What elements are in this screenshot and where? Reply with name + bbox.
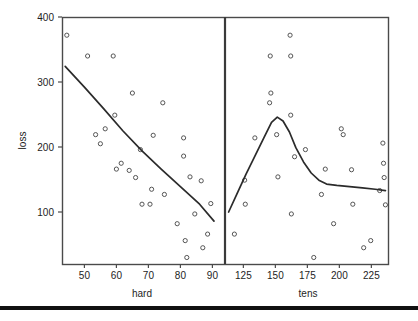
data-point [183,239,187,243]
data-point [114,167,118,171]
data-point [383,203,387,207]
data-point [209,201,213,205]
data-point [232,232,236,236]
data-point [134,175,138,179]
data-point [269,91,273,95]
data-point [341,133,345,137]
y-tick-label: 400 [37,12,54,23]
x-tick-label: 80 [175,270,187,281]
data-point [113,113,117,117]
data-point [289,54,293,58]
data-point [148,202,152,206]
y-tick-label: 300 [37,77,54,88]
data-point [103,127,107,131]
data-point [188,175,192,179]
data-point [185,255,189,259]
data-point [369,239,373,243]
data-point [268,54,272,58]
x-axis-label: hard [132,288,152,299]
y-tick-label: 200 [37,142,54,153]
data-point [94,133,98,137]
data-point [268,101,272,105]
data-point [151,133,155,137]
data-point [130,91,134,95]
data-point [276,175,280,179]
bottom-divider-bar [0,306,418,310]
data-point [312,255,316,259]
data-point [182,136,186,140]
x-axis-label: tens [299,288,318,299]
data-point [319,192,323,196]
data-point [292,155,296,159]
x-tick-label: 60 [111,270,123,281]
scatter-plot-svg: 100200300400loss5060708090hard1251501752… [0,0,418,321]
data-point [349,168,353,172]
y-tick-label: 100 [37,207,54,218]
data-point [351,202,355,206]
x-tick-label: 175 [299,270,316,281]
data-point [111,54,115,58]
data-point [86,54,90,58]
data-point [162,192,166,196]
data-point [288,33,292,37]
x-tick-label: 50 [79,270,91,281]
data-point [303,148,307,152]
data-point [182,154,186,158]
data-point [275,133,279,137]
data-point [206,232,210,236]
data-point [381,141,385,145]
data-point [140,202,144,206]
data-point [150,187,154,191]
data-point [381,161,385,165]
x-tick-label: 70 [143,270,155,281]
data-point [175,222,179,226]
data-point [65,33,69,37]
chart-figure: 100200300400loss5060708090hard1251501752… [0,0,418,321]
x-tick-label: 90 [207,270,219,281]
x-tick-label: 200 [331,270,348,281]
data-point [339,127,343,131]
data-point [362,246,366,250]
data-point [98,142,102,146]
trend-line [65,66,214,221]
data-point [289,113,293,117]
x-tick-label: 125 [235,270,252,281]
data-point [119,161,123,165]
data-point [253,136,257,140]
data-point [201,246,205,250]
data-point [243,202,247,206]
data-point [382,175,386,179]
data-point [323,167,327,171]
y-axis-label: loss [17,132,28,150]
data-point [127,168,131,172]
data-point [161,101,165,105]
data-point [193,212,197,216]
x-tick-label: 225 [363,270,380,281]
trend-line [229,117,386,212]
data-point [289,212,293,216]
x-tick-label: 150 [267,270,284,281]
data-point [199,179,203,183]
data-point [332,222,336,226]
